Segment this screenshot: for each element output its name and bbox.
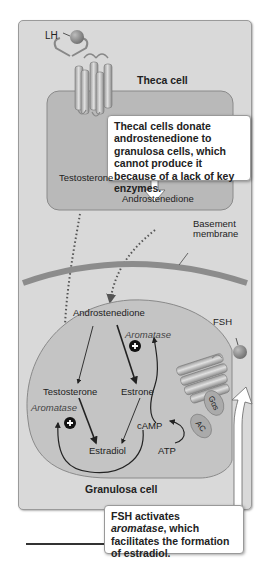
estradiol-label: Estradiol	[89, 445, 126, 456]
granulosa-androstenedione-label: Androstenedione	[73, 307, 145, 318]
fsh-hormone-icon	[233, 338, 247, 359]
fsh-label: FSH	[213, 316, 232, 327]
atp-label: ATP	[158, 445, 176, 456]
theca-callout: Thecal cells donate androstenedione to g…	[107, 115, 251, 181]
aromatase-label-bottom: Aromatase	[31, 402, 77, 413]
granulosa-testosterone-label: Testosterone	[43, 386, 97, 397]
lh-label: LH	[45, 30, 58, 41]
basement-line-2: membrane	[193, 229, 238, 239]
basement-membrane-pointer	[179, 253, 188, 265]
camp-label: cAMP	[137, 420, 162, 431]
plus-icon	[64, 417, 76, 429]
lh-hormone-icon	[63, 30, 84, 44]
basement-membrane-label: Basement membrane	[193, 219, 238, 240]
diagram-graphics: Gαs AC	[0, 0, 265, 564]
callout-text-italic: aromatase	[111, 522, 164, 534]
basement-membrane	[23, 264, 247, 283]
estrone-label: Estrone	[121, 386, 154, 397]
aromatase-label-top: Aromatase	[125, 329, 171, 340]
theca-testosterone-label: Testosterone	[59, 172, 113, 183]
theca-androstenedione-label: Androstenedione	[122, 193, 194, 204]
granulosa-cell-title: Granulosa cell	[85, 483, 157, 495]
granulosa-callout: FSH activates aromatase, which facilitat…	[104, 505, 244, 554]
plus-icon	[129, 340, 141, 352]
theca-cell-title: Theca cell	[137, 74, 188, 86]
callout-text-1: FSH activates	[111, 510, 180, 522]
